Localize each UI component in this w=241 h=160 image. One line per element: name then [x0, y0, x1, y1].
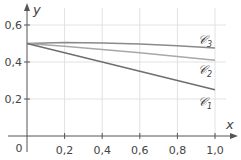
chart: 0,20,40,60,81,000,20,40,6yx𝒞3𝒞2𝒞1: [0, 0, 241, 160]
y-axis-arrow-icon: [24, 3, 30, 11]
series-label: 𝒞1: [198, 95, 212, 111]
series-label: 𝒞3: [198, 33, 212, 49]
y-tick-label: 0,6: [5, 19, 23, 32]
series-label: 𝒞2: [198, 63, 212, 79]
x-tick-label: 0,6: [131, 144, 149, 157]
x-tick-label: 0,8: [169, 144, 187, 157]
x-axis-arrow-icon: [230, 133, 238, 139]
x-axis-label: x: [225, 117, 234, 132]
series-lines: [27, 43, 215, 90]
y-tick-label: 0,4: [5, 56, 23, 69]
y-tick-label: 0,2: [5, 93, 23, 106]
x-tick-label: 1,0: [206, 144, 224, 157]
origin-label: 0: [16, 142, 23, 155]
grid: [27, 8, 226, 136]
x-tick-label: 0,2: [56, 144, 74, 157]
y-axis-label: y: [32, 2, 41, 17]
chart-svg: 0,20,40,60,81,000,20,40,6yx𝒞3𝒞2𝒞1: [0, 0, 241, 160]
x-tick-label: 0,4: [93, 144, 111, 157]
